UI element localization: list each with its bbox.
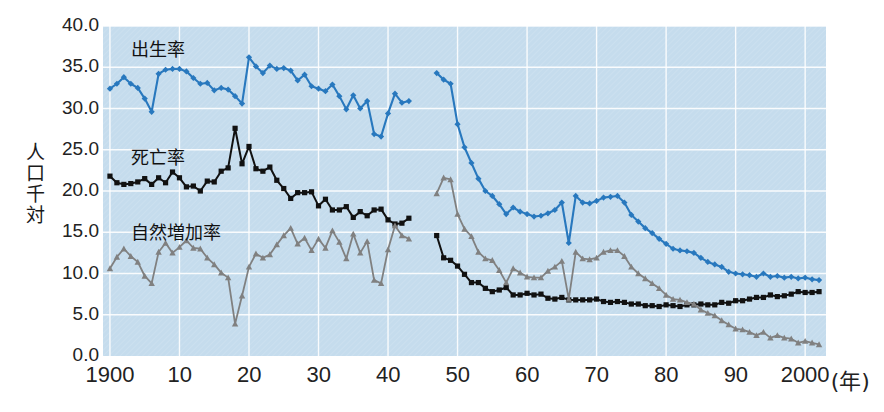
data-point: [768, 292, 773, 297]
data-point: [232, 126, 237, 131]
x-axis-tick-labels: 19001020304050607080902000(年): [0, 360, 884, 394]
data-point: [462, 272, 467, 277]
data-point: [274, 178, 279, 183]
data-point: [121, 182, 126, 187]
x-tick-label: 60: [515, 362, 539, 388]
data-point: [149, 182, 154, 187]
data-point: [469, 280, 474, 285]
data-point: [782, 293, 787, 298]
data-point: [511, 292, 516, 297]
data-point: [531, 292, 536, 297]
data-point: [191, 183, 196, 188]
x-tick-label: 1900: [85, 362, 134, 388]
x-tick-label: 80: [654, 362, 678, 388]
data-point: [476, 280, 481, 285]
x-tick-label: 90: [724, 362, 748, 388]
data-point: [365, 213, 370, 218]
data-point: [524, 291, 529, 296]
data-point: [573, 297, 578, 302]
data-point: [358, 209, 363, 214]
x-tick-label: 2000: [781, 362, 830, 388]
data-point: [378, 207, 383, 212]
data-point: [260, 169, 265, 174]
x-tick-label: 20: [237, 362, 261, 388]
data-point: [441, 255, 446, 260]
data-point: [323, 197, 328, 202]
data-point: [372, 207, 377, 212]
data-point: [740, 298, 745, 303]
data-point: [330, 207, 335, 212]
data-point: [816, 289, 821, 294]
data-point: [107, 174, 112, 179]
data-point: [754, 295, 759, 300]
x-tick-label: 70: [585, 362, 609, 388]
data-point: [747, 296, 752, 301]
data-point: [698, 301, 703, 306]
data-point: [719, 300, 724, 305]
data-point: [775, 294, 780, 299]
series-label-2: 死亡率: [131, 143, 185, 169]
data-point: [789, 292, 794, 297]
data-point: [650, 303, 655, 308]
data-point: [677, 304, 682, 309]
data-point: [580, 297, 585, 302]
data-point: [594, 296, 599, 301]
data-point: [128, 181, 133, 186]
data-point: [344, 204, 349, 209]
x-tick-label: 10: [167, 362, 191, 388]
data-point: [281, 186, 286, 191]
data-point: [601, 299, 606, 304]
data-point: [406, 216, 411, 221]
data-point: [608, 300, 613, 305]
chart-figure: 人口千対 0.05.010.015.020.025.030.035.040.0 …: [0, 0, 884, 412]
data-point: [733, 298, 738, 303]
data-point: [253, 166, 258, 171]
data-point: [434, 233, 439, 238]
data-point: [156, 175, 161, 180]
data-point: [163, 180, 168, 185]
footer-sliver: [60, 401, 820, 407]
data-point: [226, 165, 231, 170]
data-point: [448, 258, 453, 263]
data-point: [135, 179, 140, 184]
data-point: [337, 207, 342, 212]
data-point: [796, 289, 801, 294]
data-point: [198, 188, 203, 193]
data-point: [664, 302, 669, 307]
data-point: [142, 176, 147, 181]
data-point: [212, 179, 217, 184]
data-point: [483, 286, 488, 291]
data-point: [629, 301, 634, 306]
data-point: [295, 190, 300, 195]
data-point: [455, 263, 460, 268]
data-point: [643, 303, 648, 308]
data-point: [246, 144, 251, 149]
data-point: [809, 290, 814, 295]
data-point: [559, 295, 564, 300]
data-point: [712, 302, 717, 307]
data-point: [622, 300, 627, 305]
data-point: [177, 175, 182, 180]
series-label-3: 自然増加率: [131, 218, 221, 244]
data-point: [504, 285, 509, 290]
x-axis-unit-label: (年): [831, 363, 870, 395]
data-point: [497, 287, 502, 292]
data-point: [399, 221, 404, 226]
plot-area: [0, 0, 884, 412]
data-point: [518, 292, 523, 297]
data-point: [490, 289, 495, 294]
data-point: [726, 301, 731, 306]
x-tick-label: 30: [307, 362, 331, 388]
data-point: [385, 217, 390, 222]
data-point: [587, 297, 592, 302]
data-point: [309, 189, 314, 194]
data-point: [316, 203, 321, 208]
data-point: [761, 295, 766, 300]
series-label-1: 出生率: [131, 35, 185, 61]
data-point: [657, 304, 662, 309]
data-point: [803, 290, 808, 295]
data-point: [219, 169, 224, 174]
data-point: [552, 296, 557, 301]
data-point: [670, 303, 675, 308]
data-point: [351, 215, 356, 220]
